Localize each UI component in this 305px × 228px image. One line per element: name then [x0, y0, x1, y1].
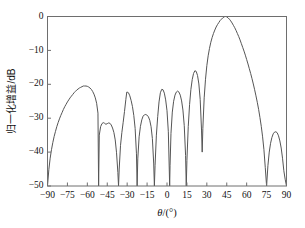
y-tick-label: −50 — [29, 180, 44, 190]
x-tick-label: −45 — [100, 190, 115, 200]
x-tick-label: 90 — [282, 190, 292, 200]
chart-figure: −90−75−60−45−30−150153045607590 0−10−20−… — [0, 0, 305, 228]
x-tick-label: 75 — [262, 190, 272, 200]
y-tick-label: −20 — [29, 78, 44, 88]
x-tick-label: 15 — [182, 190, 192, 200]
x-tick-label: −30 — [120, 190, 135, 200]
x-tick-label: 60 — [242, 190, 252, 200]
y-tick-label: −30 — [29, 112, 44, 122]
y-tick-label: −40 — [29, 146, 44, 156]
x-tick-label: 0 — [165, 190, 170, 200]
antenna-pattern-plot: −90−75−60−45−30−150153045607590 0−10−20−… — [0, 0, 305, 228]
x-tick-label: −90 — [40, 190, 55, 200]
y-axis-title: 归一化增益/dB — [5, 68, 17, 133]
x-tick-label: −15 — [140, 190, 155, 200]
x-tick-label: 30 — [202, 190, 212, 200]
x-tick-label: −75 — [60, 190, 75, 200]
y-tick-label: 0 — [39, 11, 44, 21]
x-axis-tick-labels: −90−75−60−45−30−150153045607590 — [40, 190, 291, 200]
plot-background — [48, 17, 287, 187]
y-axis-tick-labels: 0−10−20−30−40−50 — [29, 11, 44, 191]
x-tick-label: −60 — [80, 190, 95, 200]
x-axis-title: θ/(°) — [157, 207, 177, 219]
x-tick-label: 45 — [222, 190, 232, 200]
y-tick-label: −10 — [29, 45, 44, 55]
